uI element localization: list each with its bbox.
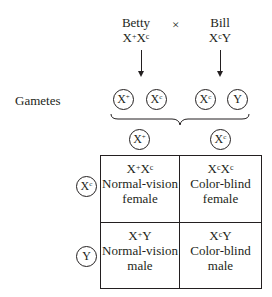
gamete-mother-1: X+ — [113, 89, 134, 110]
cell-colorblind-female: XcXc Color-blind female — [180, 161, 261, 206]
cell-colorblind-male: XcY Color-blind male — [180, 228, 261, 273]
mother-genotype: X+Xc — [106, 30, 166, 45]
grid-divider-horizontal — [101, 222, 261, 223]
gamete-father-2: Y — [227, 89, 248, 110]
row-gamete-1: Xc — [76, 176, 97, 197]
father-name: Bill — [190, 15, 250, 30]
gamete-mother-2: Xc — [146, 89, 167, 110]
cell-normal-male: X+Y Normal-vision male — [101, 228, 179, 273]
row-gamete-2: Y — [76, 246, 97, 267]
down-arrow-icon — [217, 71, 223, 77]
brace-icon — [110, 113, 250, 127]
gamete-father-1: Xc — [195, 89, 216, 110]
father-arrow-line — [220, 50, 221, 72]
column-gamete-1: X+ — [129, 129, 150, 150]
column-gamete-2: Xc — [210, 129, 231, 150]
father: Bill XcY — [190, 15, 250, 45]
mother-arrow-line — [141, 50, 142, 72]
mother: Betty X+Xc — [106, 15, 166, 45]
mother-name: Betty — [106, 15, 166, 30]
cell-normal-female: X+Xc Normal-vision female — [101, 161, 179, 206]
father-genotype: XcY — [190, 30, 250, 45]
gametes-label: Gametes — [15, 93, 60, 109]
down-arrow-icon — [138, 71, 144, 77]
cross-symbol: × — [172, 17, 179, 33]
punnett-square: X+Xc Normal-vision female XcXc Color-bli… — [100, 155, 262, 289]
